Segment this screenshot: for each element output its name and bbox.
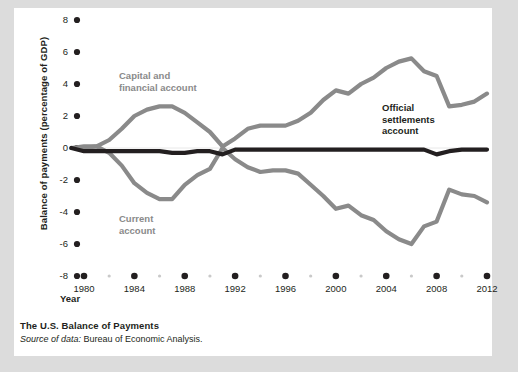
x-tick-dot: [433, 273, 440, 280]
figure-caption: The U.S. Balance of Payments Source of d…: [20, 320, 460, 344]
series-line: [71, 148, 487, 154]
y-tick-dot: [74, 177, 80, 183]
chart-plot-area: 86420-2-4-6-8198019841988199219962000200…: [14, 8, 492, 308]
y-tick-label: 0: [46, 142, 68, 153]
x-tick-label: 2000: [316, 283, 356, 294]
x-tick-label: 2008: [417, 283, 457, 294]
figure-card: Balance of payments (percentage of GDP) …: [14, 8, 492, 356]
y-tick-label: -2: [46, 174, 68, 185]
y-tick-label: -6: [46, 238, 68, 249]
x-minor-tick-dot: [359, 274, 362, 277]
x-tick-dot: [484, 273, 491, 280]
y-tick-label: 4: [46, 78, 68, 89]
y-tick-label: -8: [46, 270, 68, 281]
x-tick-label: 1996: [266, 283, 306, 294]
x-minor-tick-dot: [259, 274, 262, 277]
x-tick-dot: [333, 273, 340, 280]
series-label-official-settlements-account: Official settlements account: [382, 102, 435, 137]
y-tick-dot: [74, 49, 80, 55]
y-tick-label: -4: [46, 206, 68, 217]
y-tick-dot: [74, 17, 80, 23]
chart-svg: [14, 8, 492, 308]
x-minor-tick-dot: [410, 274, 413, 277]
y-tick-dot: [74, 81, 80, 87]
series-label-current-account: Current account: [119, 213, 155, 236]
x-tick-label: 1984: [114, 283, 154, 294]
x-tick-dot: [232, 273, 239, 280]
x-tick-label: 1992: [215, 283, 255, 294]
caption-title: The U.S. Balance of Payments: [20, 320, 460, 331]
y-tick-dot: [74, 113, 80, 119]
x-minor-tick-dot: [309, 274, 312, 277]
x-minor-tick-dot: [460, 274, 463, 277]
x-minor-tick-dot: [158, 274, 161, 277]
x-tick-dot: [131, 273, 138, 280]
y-tick-dot: [74, 273, 80, 279]
caption-source-label: Source of data:: [20, 334, 81, 344]
caption-source: Source of data: Bureau of Economic Analy…: [20, 334, 460, 344]
y-tick-dot: [74, 241, 80, 247]
y-tick-label: 6: [46, 46, 68, 57]
x-minor-tick-dot: [208, 274, 211, 277]
y-tick-dot: [74, 209, 80, 215]
caption-source-value: Bureau of Economic Analysis.: [81, 334, 203, 344]
x-tick-label: 2012: [467, 283, 507, 294]
y-tick-label: 8: [46, 14, 68, 25]
x-tick-dot: [81, 273, 88, 280]
series-label-capital-and-financial-account: Capital and financial account: [119, 70, 197, 93]
x-axis-title: Year: [60, 293, 80, 304]
x-tick-label: 2004: [366, 283, 406, 294]
x-tick-dot: [181, 273, 188, 280]
x-tick-dot: [383, 273, 390, 280]
y-tick-label: 2: [46, 110, 68, 121]
x-tick-dot: [282, 273, 289, 280]
x-tick-label: 1988: [165, 283, 205, 294]
x-minor-tick-dot: [108, 274, 111, 277]
